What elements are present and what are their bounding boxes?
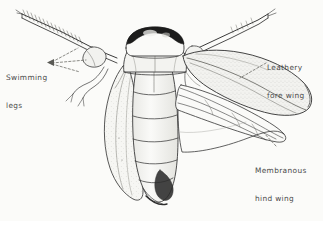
label-swimming-legs-line2: legs xyxy=(6,101,47,110)
label-fore-wing-line2: fore wing xyxy=(267,91,305,100)
label-fore-wing-line1: Leathery xyxy=(267,63,305,72)
head xyxy=(126,27,184,58)
label-hind-wing-line2: hind wing xyxy=(255,194,307,203)
label-swimming-legs-line1: Swimming xyxy=(6,73,47,82)
label-leathery-fore-wing: Leathery fore wing xyxy=(267,45,305,109)
label-swimming-legs: Swimming legs xyxy=(6,55,47,119)
label-membranous-hind-wing: Membranous hind wing xyxy=(255,148,307,212)
label-hind-wing-line1: Membranous xyxy=(255,166,307,175)
